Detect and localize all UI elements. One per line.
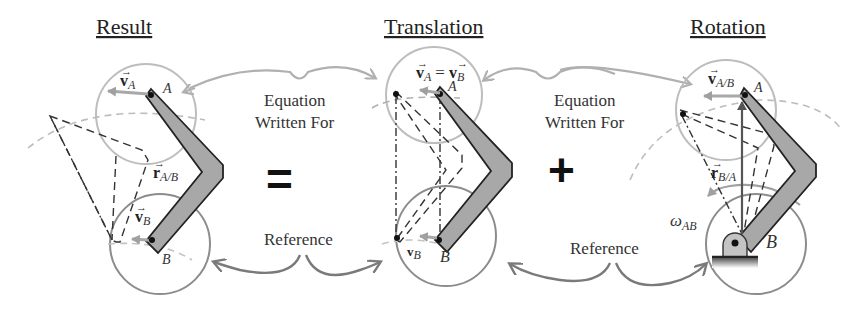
- vector-arrow-glyph: →: [121, 65, 132, 77]
- pin-A: [148, 92, 154, 98]
- label-point-B-rotation: B: [766, 232, 777, 252]
- vector-vB-arrow-translation: [420, 236, 437, 238]
- connector-equation-right-b: [560, 67, 690, 84]
- label-point-B: B: [162, 252, 171, 267]
- svg-text:vB: vB: [407, 244, 422, 262]
- relative-velocity-diagram: Result Translation Rotation vA → A rA/B …: [0, 0, 844, 312]
- link-AB-translation: [435, 87, 512, 252]
- ghost-line-dashed: [112, 156, 116, 240]
- label-equation-right-2: Written For: [545, 113, 624, 132]
- connector-equation-left: [190, 67, 375, 88]
- pin-A-rotation: [742, 92, 748, 98]
- connector-reference-left-a: [214, 255, 300, 273]
- pin-B-rotation: [732, 240, 739, 247]
- operator-plus: +: [548, 144, 575, 196]
- translation-panel: vA=vB → → A vB B: [372, 47, 512, 286]
- label-reference-left: Reference: [264, 230, 333, 249]
- operator-equals: =: [266, 153, 293, 205]
- vector-vB-arrow: [132, 239, 148, 240]
- connector-reference-right-a: [510, 263, 610, 281]
- vector-arrow-glyph: →: [136, 201, 147, 213]
- label-equation-left-1: Equation: [264, 91, 326, 110]
- label-equation-right-1: Equation: [554, 91, 616, 110]
- svg-text:ωAB: ωAB: [670, 211, 697, 233]
- vector-arrow-glyph: →: [417, 57, 428, 69]
- label-point-A-translation: A: [447, 79, 457, 94]
- vector-arrow-glyph: →: [712, 157, 723, 169]
- label-equation-left-2: Written For: [255, 113, 334, 132]
- pin-B-ghost: [394, 235, 400, 241]
- ground-hatch: [712, 258, 758, 268]
- connector-equation-right-a: [484, 67, 615, 80]
- connector-reference-left-b: [306, 255, 380, 275]
- title-translation: Translation: [384, 14, 483, 39]
- vector-arrow-glyph: →: [709, 63, 720, 75]
- label-point-A: A: [162, 81, 172, 96]
- label-omega: ω: [670, 211, 682, 230]
- pin-A-ghost: [393, 91, 399, 97]
- rotation-panel: vA/B → A rB/A → ωAB B: [630, 60, 842, 294]
- ghost-link-dashed: [50, 116, 148, 242]
- label-point-A-rotation: A: [753, 80, 763, 95]
- label-reference-right: Reference: [570, 239, 639, 258]
- title-result: Result: [96, 14, 152, 39]
- title-rotation: Rotation: [690, 14, 766, 39]
- result-panel: vA → A rA/B → vB → B: [28, 64, 223, 294]
- vector-arrow-glyph: →: [154, 157, 165, 169]
- pin-B: [149, 237, 155, 243]
- vector-arrow-glyph: →: [457, 57, 468, 69]
- link-AB-rotation: [738, 88, 816, 252]
- connector-reference-right-b: [616, 263, 706, 285]
- pin-A-ghost-rotation: [680, 111, 686, 117]
- label-point-B-translation: B: [440, 248, 450, 265]
